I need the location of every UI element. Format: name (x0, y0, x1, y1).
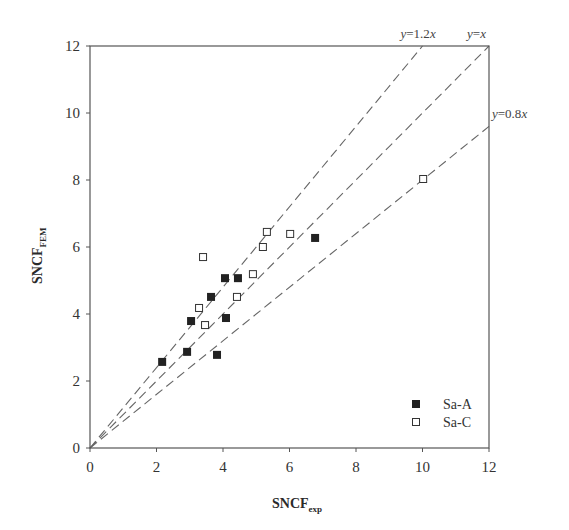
point-sa-a (187, 317, 195, 325)
reference-line-labels: y=1.2xy=xy=0.8x (399, 26, 528, 121)
reference-line-label: y=x (465, 26, 486, 41)
reference-line-label: y=0.8x (490, 106, 527, 121)
point-sa-a (207, 293, 215, 301)
y-axis-title: SNCFFEM (30, 227, 48, 284)
y-tick-label: 0 (73, 440, 81, 456)
x-tick-label: 12 (482, 459, 497, 475)
y-tick-label: 4 (73, 306, 81, 322)
point-sa-c (233, 293, 240, 300)
point-sa-a (234, 274, 242, 282)
legend-marker-sa-a (412, 400, 420, 408)
point-sa-c (200, 254, 207, 261)
x-axis-title: SNCFexp (272, 496, 322, 514)
y-tick-label: 12 (65, 38, 80, 54)
point-sa-a (221, 274, 229, 282)
y-tick-label: 2 (73, 373, 81, 389)
x-tick-label: 6 (286, 459, 294, 475)
y-tick-label: 6 (73, 239, 81, 255)
x-tick-label: 0 (86, 459, 94, 475)
legend-label-sa-a: Sa-A (443, 397, 473, 412)
point-sa-c (259, 244, 266, 251)
point-sa-c (420, 175, 427, 182)
y-tick-label: 10 (65, 105, 80, 121)
x-tick-label: 2 (153, 459, 161, 475)
y-tick-label: 8 (73, 172, 81, 188)
reference-line-label: y=1.2x (399, 26, 436, 41)
reference-line-slope-1-2 (90, 46, 423, 448)
point-sa-a (183, 348, 191, 356)
x-tick-label: 10 (415, 459, 430, 475)
point-sa-c (196, 304, 203, 311)
point-sa-a (222, 314, 230, 322)
point-sa-c (202, 322, 209, 329)
point-sa-a (158, 358, 166, 366)
legend-label-sa-c: Sa-C (443, 415, 471, 430)
point-sa-a (311, 234, 319, 242)
reference-line-slope-1 (90, 46, 489, 448)
reference-line-slope-0-8 (90, 126, 489, 448)
x-tick-label: 8 (352, 459, 360, 475)
point-sa-c (263, 228, 270, 235)
reference-lines (90, 46, 489, 448)
legend-marker-sa-c (413, 419, 420, 426)
point-sa-a (213, 351, 221, 359)
legend: Sa-A Sa-C (412, 397, 473, 430)
x-tick-label: 4 (219, 459, 227, 475)
point-sa-c (287, 230, 294, 237)
scatter-chart: 024681012024681012 y=1.2xy=xy=0.8x SNCFe… (0, 0, 569, 530)
point-sa-c (249, 271, 256, 278)
